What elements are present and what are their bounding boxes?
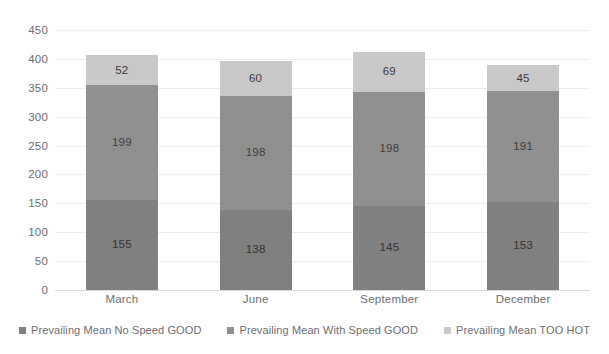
bar-group[interactable]: 15519952 — [86, 30, 158, 290]
bar-value-label: 153 — [513, 240, 533, 252]
bar-group[interactable]: 13819860 — [220, 30, 292, 290]
bar-value-label: 52 — [115, 65, 128, 77]
y-axis-tick-label: 250 — [28, 140, 48, 152]
bar-value-label: 199 — [112, 137, 132, 149]
plot-area: 15519952138198601451986915319145 — [55, 30, 590, 290]
legend-swatch-icon — [19, 327, 26, 334]
x-axis-labels: MarchJuneSeptemberDecember — [55, 293, 590, 313]
bar-segment[interactable]: 155 — [86, 200, 158, 290]
bar-segment[interactable]: 153 — [487, 202, 559, 290]
bar-segment[interactable]: 191 — [487, 91, 559, 201]
bar-value-label: 191 — [513, 141, 533, 153]
legend-label: Prevailing Mean With Speed GOOD — [239, 324, 418, 336]
y-axis-labels: 450400350300250200150100500 — [0, 30, 48, 290]
bar-value-label: 155 — [112, 239, 132, 251]
bar-value-label: 60 — [249, 73, 262, 85]
x-axis-category-label: September — [360, 293, 418, 305]
y-axis-tick-label: 400 — [28, 53, 48, 65]
bar-value-label: 138 — [246, 244, 266, 256]
y-axis-tick-label: 200 — [28, 168, 48, 180]
bar-value-label: 69 — [383, 66, 396, 78]
legend-swatch-icon — [227, 327, 234, 334]
y-axis-tick-label: 150 — [28, 197, 48, 209]
legend-item[interactable]: Prevailing Mean No Speed GOOD — [19, 324, 201, 336]
bar-segment[interactable]: 60 — [220, 61, 292, 96]
y-axis-tick-label: 50 — [35, 255, 48, 267]
bar-segment[interactable]: 198 — [220, 96, 292, 210]
legend-label: Prevailing Mean No Speed GOOD — [31, 324, 201, 336]
chart-legend: Prevailing Mean No Speed GOODPrevailing … — [0, 324, 609, 336]
bar-segment[interactable]: 45 — [487, 65, 559, 91]
bar-value-label: 198 — [246, 147, 266, 159]
bar-group[interactable]: 14519869 — [353, 30, 425, 290]
y-axis-tick-label: 300 — [28, 111, 48, 123]
bar-value-label: 145 — [379, 242, 399, 254]
legend-label: Prevailing Mean TOO HOT — [456, 324, 590, 336]
legend-item[interactable]: Prevailing Mean With Speed GOOD — [227, 324, 418, 336]
bar-segment[interactable]: 198 — [353, 92, 425, 206]
bar-segment[interactable]: 199 — [86, 85, 158, 200]
bar-value-label: 198 — [379, 143, 399, 155]
bar-value-label: 45 — [517, 73, 530, 85]
y-axis-tick-label: 0 — [41, 284, 48, 296]
bar-segment[interactable]: 138 — [220, 210, 292, 290]
chart-container: 450400350300250200150100500 155199521381… — [0, 0, 609, 354]
x-axis-category-label: March — [105, 293, 138, 305]
y-axis-tick-label: 100 — [28, 226, 48, 238]
x-axis-category-label: June — [243, 293, 269, 305]
legend-item[interactable]: Prevailing Mean TOO HOT — [444, 324, 590, 336]
y-axis-tick-label: 450 — [28, 24, 48, 36]
bar-segment[interactable]: 69 — [353, 52, 425, 92]
axis-baseline — [55, 290, 590, 291]
bar-segment[interactable]: 52 — [86, 55, 158, 85]
x-axis-category-label: December — [496, 293, 551, 305]
bar-group[interactable]: 15319145 — [487, 30, 559, 290]
bar-series-group: 15519952138198601451986915319145 — [55, 30, 590, 290]
y-axis-tick-label: 350 — [28, 82, 48, 94]
bar-segment[interactable]: 145 — [353, 206, 425, 290]
legend-swatch-icon — [444, 327, 451, 334]
